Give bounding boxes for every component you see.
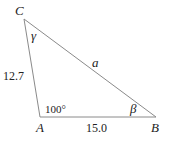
angle-label-a: 100° [45, 103, 66, 115]
vertex-label-a: A [35, 120, 44, 135]
vertex-label-c: C [15, 3, 24, 18]
triangle-diagram: C A B 12.7 15.0 a 100° β γ [0, 0, 170, 141]
side-label-c: 15.0 [86, 121, 107, 135]
side-label-a: a [92, 55, 99, 70]
angle-label-c: γ [31, 28, 37, 43]
vertex-label-b: B [151, 120, 159, 135]
angle-label-b: β [129, 101, 137, 116]
side-label-b: 12.7 [3, 69, 24, 83]
